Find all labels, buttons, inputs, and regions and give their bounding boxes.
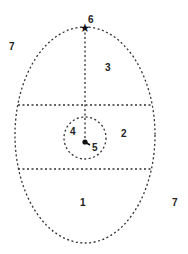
outer-ellipse [15, 27, 155, 243]
zone-label-1: 1 [80, 198, 86, 208]
zone-label-3: 3 [105, 63, 111, 73]
zone-label-7-right: 7 [172, 198, 178, 208]
zone-label-4: 4 [70, 127, 76, 137]
zone-label-6: 6 [88, 15, 94, 25]
zone-label-7-left: 7 [9, 42, 15, 52]
zone-label-5: 5 [92, 143, 98, 153]
zone-label-2: 2 [121, 129, 127, 139]
zone-diagram: ★ [0, 0, 188, 254]
